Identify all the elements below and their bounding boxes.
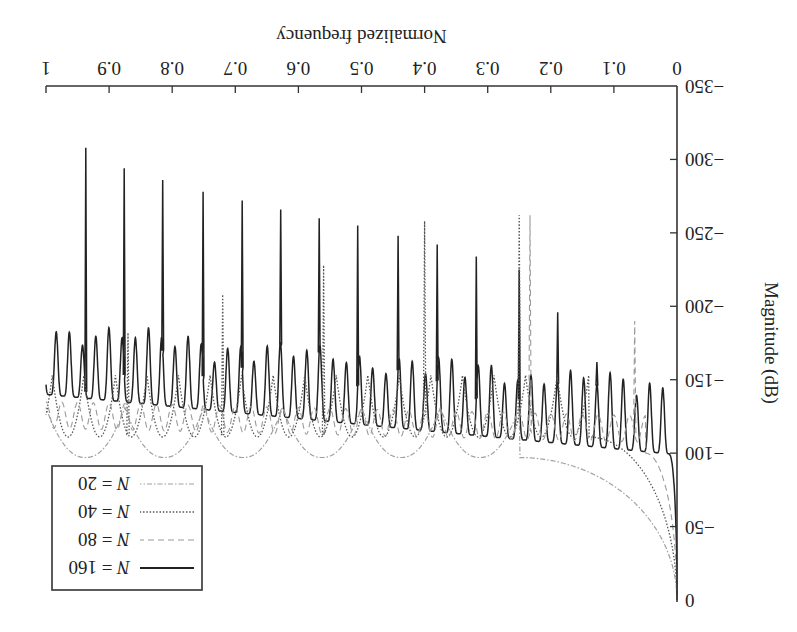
x-tick-label: 1 (41, 58, 51, 79)
legend-label: N = 160 (69, 557, 131, 578)
y-tick-label: −50 (685, 517, 715, 538)
x-tick-label: 0.4 (412, 58, 436, 79)
legend-label: N = 40 (78, 501, 131, 522)
y-tick-label: −350 (685, 76, 724, 97)
x-tick-label: 0.1 (602, 58, 626, 79)
legend-label: N = 20 (78, 473, 131, 494)
magnitude-response-chart: 00.10.20.30.40.50.60.70.80.910−50−100−15… (0, 0, 797, 632)
y-tick-label: −250 (685, 223, 724, 244)
y-tick-label: 0 (685, 590, 695, 611)
x-axis-title: Normalized frequency (276, 26, 447, 47)
y-axis-title: Magnitude (dB) (760, 282, 782, 404)
y-tick-label: −200 (685, 296, 724, 317)
x-tick-label: 0.7 (223, 58, 247, 79)
y-tick-label: −100 (685, 443, 724, 464)
y-tick-label: −150 (685, 370, 724, 391)
x-tick-label: 0.8 (160, 58, 184, 79)
x-tick-label: 0.2 (539, 58, 563, 79)
legend: N = 160N = 80N = 40N = 20 (52, 466, 202, 590)
legend-label: N = 80 (78, 529, 131, 550)
x-tick-label: 0.9 (97, 58, 121, 79)
x-tick-label: 0.5 (350, 58, 374, 79)
x-tick-label: 0 (672, 58, 682, 79)
y-tick-label: −300 (685, 149, 724, 170)
x-tick-label: 0.3 (476, 58, 500, 79)
x-tick-label: 0.6 (287, 58, 311, 79)
chart-figure: 00.10.20.30.40.50.60.70.80.910−50−100−15… (0, 0, 797, 632)
